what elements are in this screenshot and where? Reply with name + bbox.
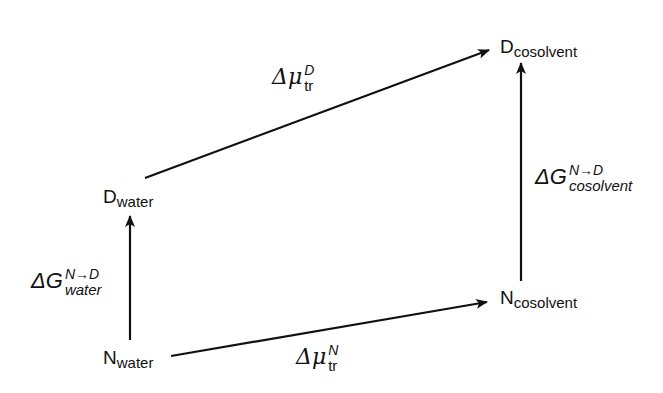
label-dmu-N: ΔμNtr — [296, 345, 338, 375]
state-n-cosolvent-main: N — [500, 287, 514, 308]
label-dG-cosolvent-symbol: ΔG — [535, 164, 567, 189]
label-dG-water-sup: N→D — [65, 267, 102, 282]
label-dmu-D-sup: D — [304, 63, 314, 78]
label-dmu-D-sub: tr — [304, 78, 314, 94]
arrow-dmu-D — [145, 50, 489, 178]
label-dG-cosolvent-sub: cosolvent — [569, 178, 632, 194]
state-d-cosolvent-sub: cosolvent — [514, 43, 577, 60]
state-n-cosolvent-sub: cosolvent — [514, 294, 577, 311]
state-d-water: Dwater — [103, 187, 153, 206]
state-n-water: Nwater — [103, 348, 153, 367]
label-dmu-D-symbol: Δμ — [272, 64, 302, 89]
label-dG-water: ΔGN→Dwater — [31, 269, 102, 299]
state-n-water-main: N — [103, 347, 117, 368]
label-dmu-N-sup: N — [328, 343, 338, 358]
label-dG-cosolvent: ΔGN→Dcosolvent — [535, 165, 632, 195]
state-n-cosolvent: Ncosolvent — [500, 288, 577, 307]
label-dG-water-symbol: ΔG — [31, 268, 63, 293]
state-d-cosolvent-main: D — [500, 36, 514, 57]
state-d-cosolvent: Dcosolvent — [500, 37, 577, 56]
label-dmu-D: ΔμDtr — [272, 65, 314, 95]
label-dmu-N-sub: tr — [328, 358, 338, 374]
state-n-water-sub: water — [117, 354, 154, 371]
label-dmu-N-symbol: Δμ — [296, 344, 326, 369]
label-dG-water-sub: water — [65, 282, 102, 298]
state-d-water-main: D — [103, 186, 117, 207]
state-d-water-sub: water — [117, 193, 154, 210]
label-dG-cosolvent-sup: N→D — [569, 163, 632, 178]
